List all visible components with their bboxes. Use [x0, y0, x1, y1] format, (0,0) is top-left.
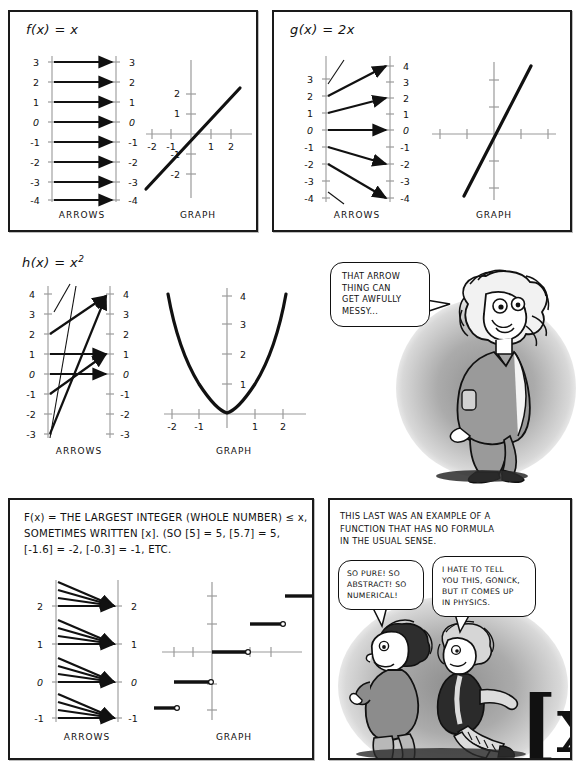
- p4-arrow-diagram: 2 1 0 -1 2 1 0 -1: [22, 578, 152, 726]
- balloon-pure: SO PURE! SO ABSTRACT! SO NUMERICAL!: [338, 560, 424, 610]
- svg-text:1: 1: [208, 141, 214, 152]
- svg-text:1: 1: [33, 97, 39, 108]
- svg-text:-2: -2: [171, 169, 180, 180]
- balloon-pure-line-3: NUMERICAL!: [347, 590, 417, 601]
- p1-graph: -2 -1 1 2 2 1 -1 -2: [140, 52, 256, 207]
- svg-text:3: 3: [33, 57, 39, 68]
- svg-text:-2: -2: [304, 159, 313, 170]
- svg-text:-3: -3: [128, 177, 137, 188]
- narration-line-3: IN THE USUAL SENSE.: [340, 535, 494, 548]
- messy-guy-shadow: [436, 470, 528, 482]
- narration-line-1: THIS LAST WAS AN EXAMPLE OF A: [340, 510, 494, 523]
- svg-text:1: 1: [252, 421, 258, 432]
- svg-text:0: 0: [33, 117, 39, 128]
- svg-text:0: 0: [307, 125, 313, 136]
- svg-text:-1: -1: [400, 142, 409, 153]
- svg-text:2: 2: [307, 91, 313, 102]
- p4-graph: [160, 578, 308, 726]
- svg-text:0: 0: [29, 369, 35, 380]
- balloon-messy-line-4: MESSY...: [342, 306, 420, 318]
- balloon-pure-line-2: ABSTRACT! SO: [347, 579, 417, 590]
- svg-text:0: 0: [37, 677, 43, 688]
- floor-def-line-1: F(x) = THE LARGEST INTEGER (WHOLE NUMBER…: [24, 510, 307, 526]
- svg-text:2: 2: [33, 77, 39, 88]
- svg-text:-1: -1: [194, 421, 203, 432]
- svg-text:-1: -1: [30, 137, 39, 148]
- svg-text:-1: -1: [128, 713, 137, 724]
- narration-line-2: FUNCTION THAT HAS NO FORMULA: [340, 523, 494, 536]
- svg-text:2: 2: [129, 77, 135, 88]
- p2-graph-caption: GRAPH: [424, 210, 564, 220]
- svg-text:3: 3: [307, 74, 313, 85]
- balloon-physics-line-3: BUT IT COMES UP: [442, 586, 529, 597]
- formula-h: h(x) = x2: [22, 254, 84, 270]
- formula-h-exponent: 2: [78, 254, 84, 264]
- p2-arrow-diagram: 3 2 1 0 -1 -2 -3 -4 4 3 2 1 0 -1 -2 -3 -…: [292, 52, 422, 207]
- p1-arrows-caption: ARROWS: [22, 210, 142, 220]
- svg-text:2: 2: [240, 349, 246, 360]
- svg-text:3: 3: [240, 319, 246, 330]
- svg-text:1: 1: [307, 108, 313, 119]
- svg-text:-3: -3: [400, 176, 409, 187]
- svg-text:-2: -2: [30, 157, 39, 168]
- svg-text:-2: -2: [128, 157, 137, 168]
- p3-arrows-caption: ARROWS: [14, 446, 144, 456]
- svg-text:-3: -3: [120, 429, 129, 440]
- formula-f: f(x) = x: [26, 22, 78, 37]
- svg-text:2: 2: [228, 141, 234, 152]
- p2-arrows-caption: ARROWS: [292, 210, 422, 220]
- comic-page: f(x) = x 3 3 2 2: [0, 0, 579, 767]
- svg-text:1: 1: [123, 349, 129, 360]
- p3-graph: -2 -1 1 2 1 2 3 4: [154, 278, 314, 438]
- svg-text:-4: -4: [304, 193, 313, 204]
- panel-floor-function: F(x) = THE LARGEST INTEGER (WHOLE NUMBER…: [8, 498, 314, 760]
- balloon-physics-line-2: YOU THIS, GONICK,: [442, 575, 529, 586]
- svg-text:-2: -2: [26, 409, 35, 420]
- svg-text:0: 0: [123, 369, 129, 380]
- balloon-pure-line-1: SO PURE! SO: [347, 568, 417, 579]
- svg-text:4: 4: [403, 61, 409, 72]
- svg-text:-1: -1: [120, 389, 129, 400]
- floor-definition: F(x) = THE LARGEST INTEGER (WHOLE NUMBER…: [24, 510, 307, 558]
- svg-text:1: 1: [240, 379, 246, 390]
- svg-text:-1: -1: [128, 137, 137, 148]
- panel-f-of-x: f(x) = x 3 3 2 2: [8, 10, 258, 232]
- svg-text:1: 1: [129, 97, 135, 108]
- svg-text:-2: -2: [167, 421, 176, 432]
- p2-graph: [424, 52, 564, 207]
- svg-text:-2: -2: [400, 159, 409, 170]
- svg-text:0: 0: [131, 677, 137, 688]
- svg-text:2: 2: [131, 601, 137, 612]
- svg-text:3: 3: [123, 309, 129, 320]
- balloon-messy-line-2: THING CAN: [342, 283, 420, 295]
- svg-text:-3: -3: [30, 177, 39, 188]
- svg-text:3: 3: [129, 57, 135, 68]
- messy-cartoon-scene: THAT ARROW THING CAN GET AWFULLY MESSY..…: [318, 248, 579, 488]
- balloon-messy-line-1: THAT ARROW: [342, 271, 420, 283]
- svg-text:-1: -1: [304, 142, 313, 153]
- svg-text:4: 4: [240, 291, 246, 302]
- svg-text:2: 2: [37, 601, 43, 612]
- svg-text:-3: -3: [26, 429, 35, 440]
- p4-graph-caption: GRAPH: [160, 732, 308, 742]
- svg-text:1: 1: [174, 108, 180, 119]
- svg-text:2: 2: [29, 329, 35, 340]
- svg-text:2: 2: [174, 88, 180, 99]
- svg-text:1: 1: [403, 109, 409, 120]
- svg-text:2: 2: [403, 93, 409, 104]
- svg-text:-3: -3: [304, 176, 313, 187]
- svg-text:1: 1: [29, 349, 35, 360]
- narration-text: THIS LAST WAS AN EXAMPLE OF A FUNCTION T…: [340, 510, 494, 548]
- svg-text:-2: -2: [120, 409, 129, 420]
- balloon-physics-line-4: IN PHYSICS.: [442, 597, 529, 608]
- kids-scene-shadow: [356, 748, 526, 760]
- floor-def-line-3: [-1.6] = -2, [-0.3] = -1, ETC.: [24, 542, 307, 558]
- svg-text:2: 2: [123, 329, 129, 340]
- svg-text:0: 0: [129, 117, 135, 128]
- balloon-physics: I HATE TO TELL YOU THIS, GONICK, BUT IT …: [432, 556, 536, 617]
- p3-arrow-diagram: 4 3 2 1 0 -1 -2 -3 4 3 2 1 0 -1 -2 -3: [14, 282, 144, 442]
- p3-graph-caption: GRAPH: [154, 446, 314, 456]
- floor-def-line-2: SOMETIMES WRITTEN [x]. (SO [5] = 5, [5.7…: [24, 526, 307, 542]
- svg-text:3: 3: [29, 309, 35, 320]
- svg-text:2: 2: [280, 421, 286, 432]
